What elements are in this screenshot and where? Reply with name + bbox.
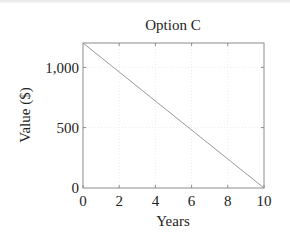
x-axis-label: Years: [156, 213, 190, 229]
x-tick-2: 2: [115, 193, 123, 209]
y-tick-0: 0: [72, 180, 80, 196]
x-tick-6: 6: [188, 193, 196, 209]
y-axis-label: Value ($): [17, 87, 34, 142]
y-tick-500: 500: [57, 120, 80, 136]
x-tick-10: 10: [257, 193, 272, 209]
x-tick-labels: 0 2 4 6 8 10: [79, 193, 271, 209]
chart: Option C 0 2 4 6 8 10: [0, 0, 290, 243]
y-tick-1000: 1,000: [45, 60, 79, 76]
x-tick-0: 0: [79, 193, 87, 209]
y-tick-labels: 0 500 1,000: [45, 60, 79, 196]
series-line-option-c: [83, 43, 264, 188]
x-tick-8: 8: [224, 193, 232, 209]
x-tick-4: 4: [152, 193, 160, 209]
chart-title: Option C: [145, 17, 200, 33]
